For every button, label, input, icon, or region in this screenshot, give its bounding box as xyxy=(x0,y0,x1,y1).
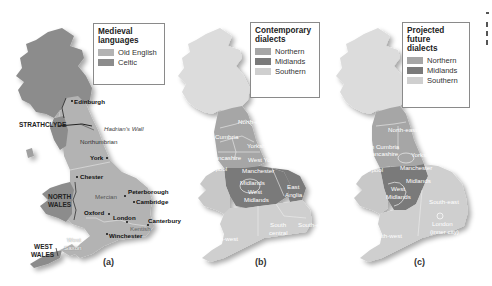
map-panel-projected-future-dialects: North-east South Cumbria and Lancashire … xyxy=(318,0,483,286)
legend-title-line-1: Projected xyxy=(407,26,465,35)
region-label-north-wales-2: WALES xyxy=(48,202,71,209)
region-label-west-midlands-1: West xyxy=(248,189,262,195)
legend-medieval-languages: Medieval languages Old English Celtic xyxy=(93,23,165,85)
place-label-oxford: Oxford xyxy=(84,210,104,216)
london-marker-icon xyxy=(126,221,128,223)
region-label-west-midlands-1: West xyxy=(391,186,405,192)
swatch-midlands xyxy=(255,58,271,65)
swatch-southern xyxy=(255,68,271,75)
place-label-chester: Chester xyxy=(80,174,103,180)
region-label-south-cumbria-2: and Lancashire xyxy=(356,151,398,157)
region-label-liverpool: Liverpool xyxy=(202,166,227,172)
cambridge-marker-icon xyxy=(133,201,135,203)
legend-title-line-3: dialects xyxy=(407,44,465,53)
legend-item-midlands: Midlands xyxy=(407,65,465,75)
legend-title-line-2: languages xyxy=(98,36,160,45)
panel-caption-b: (b) xyxy=(255,257,267,267)
region-label-midlands: Midlands xyxy=(240,180,265,186)
edinburgh-marker-icon xyxy=(71,100,73,102)
region-label-west-yorkshire: West Yorkshire xyxy=(248,157,289,163)
chester-marker-icon xyxy=(76,176,78,178)
map-panel-contemporary-dialects: North-east Cumbria Yorkshire Lancashire … xyxy=(160,0,325,286)
region-label-north-wales-1: NORTH xyxy=(48,194,71,201)
region-label-north-east: North-east xyxy=(388,127,417,133)
legend-projected-future-dialects: Projected future dialects Northern Midla… xyxy=(402,22,470,108)
region-label-east-anglia-1: East xyxy=(287,184,299,190)
region-label-northumbrian: Northumbrian xyxy=(80,139,118,145)
legend-item-southern: Southern xyxy=(255,66,315,76)
region-label-strathclyde: STRATHCLYDE xyxy=(19,122,66,129)
legend-item-old-english: Old English xyxy=(98,47,160,57)
place-label-london: London xyxy=(113,215,136,221)
winchester-marker-icon xyxy=(106,233,108,235)
legend-label-southern: Southern xyxy=(427,76,458,85)
legend-title: Medieval languages xyxy=(98,27,160,45)
legend-label-celtic: Celtic xyxy=(118,58,137,67)
legend-title-line-1: Medieval xyxy=(98,27,160,36)
cropped-text-fragment xyxy=(486,22,488,27)
legend-title-line-1: Contemporary xyxy=(255,26,315,35)
legend-title: Projected future dialects xyxy=(407,26,465,53)
region-label-north-east: North-east xyxy=(238,119,267,125)
york-marker-icon xyxy=(106,157,108,159)
place-label-york: York xyxy=(90,155,103,161)
swatch-southern xyxy=(407,77,423,84)
swatch-northern xyxy=(407,57,423,64)
region-label-south-central-1: South xyxy=(270,222,286,228)
region-label-mercian: Mercian xyxy=(95,194,117,200)
cropped-text-fragment xyxy=(486,40,488,45)
region-label-west-midlands-2: Midlands xyxy=(244,197,269,203)
label-hadrians-wall: Hadrian's Wall xyxy=(104,126,144,132)
legend-item-northern: Northern xyxy=(255,46,315,56)
region-label-yorkshire: Yorkshire xyxy=(247,143,273,149)
legend-label-old-english: Old English xyxy=(118,48,157,57)
region-label-lancashire: Lancashire xyxy=(211,155,241,161)
legend-item-northern: Northern xyxy=(407,55,465,65)
legend-label-midlands: Midlands xyxy=(275,57,305,66)
legend-item-southern: Southern xyxy=(407,75,465,85)
region-label-liverpool: Liverpool xyxy=(358,167,383,173)
legend-item-celtic: Celtic xyxy=(98,57,160,67)
region-label-midlands: Midlands xyxy=(406,178,431,184)
region-label-london-2: (inner city) xyxy=(430,229,459,235)
legend-label-midlands: Midlands xyxy=(427,66,457,75)
oxford-marker-icon xyxy=(108,213,110,215)
region-label-yorkshire: Yorkshire xyxy=(411,152,437,158)
swatch-northern xyxy=(255,48,271,55)
region-label-south-west: South-west xyxy=(371,233,402,239)
peterborough-marker-icon xyxy=(124,195,126,197)
region-label-south-east: South-east xyxy=(429,199,459,205)
cropped-text-fragment xyxy=(486,12,489,14)
legend-title-line-2: future xyxy=(407,35,465,44)
place-label-edinburgh: Edinburgh xyxy=(74,99,105,105)
region-label-west-saxon-2: Saxon xyxy=(64,245,82,251)
region-label-east-anglia-2: Anglia xyxy=(285,192,302,198)
legend-label-northern: Northern xyxy=(427,56,457,65)
cropped-text-fragment xyxy=(486,31,488,36)
place-label-winchester: Winchester xyxy=(109,233,142,239)
legend-label-southern: Southern xyxy=(275,67,306,76)
legend-label-northern: Northern xyxy=(275,47,305,56)
region-label-west-saxon-1: West xyxy=(67,237,81,243)
legend-title: Contemporary dialects xyxy=(255,26,315,44)
legend-contemporary-dialects: Contemporary dialects Northern Midlands … xyxy=(250,22,320,98)
panel-caption-c: (c) xyxy=(414,257,425,267)
swatch-old-english xyxy=(98,49,114,56)
panel-caption-a: (a) xyxy=(103,257,114,267)
region-label-cumbria: Cumbria xyxy=(215,134,238,140)
region-label-south-west: South-west xyxy=(207,236,238,242)
region-label-west-wales-2: WALES xyxy=(31,252,54,259)
region-label-manchester: Manchester xyxy=(242,168,274,174)
swatch-midlands xyxy=(407,67,423,74)
region-label-south-central-2: central xyxy=(269,230,288,236)
region-label-manchester: Manchester xyxy=(400,165,432,171)
swatch-celtic xyxy=(98,59,114,66)
legend-title-line-2: dialects xyxy=(255,35,315,44)
region-label-west-wales-1: WEST xyxy=(34,244,53,251)
legend-item-midlands: Midlands xyxy=(255,56,315,66)
region-label-london-1: London xyxy=(432,221,453,227)
map-panel-medieval-languages: Edinburgh STRATHCLYDE Hadrian's Wall Nor… xyxy=(0,0,165,286)
region-label-west-midlands-2: Midlands xyxy=(386,194,411,200)
